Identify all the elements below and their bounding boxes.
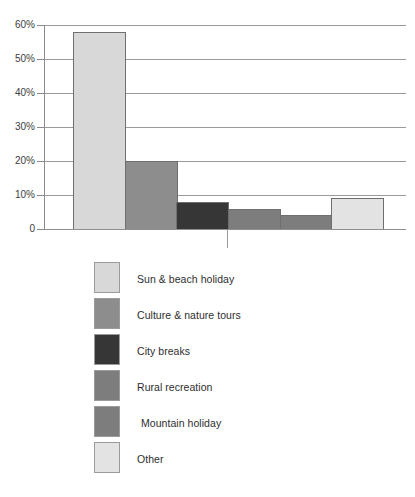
y-tick-mark-20 bbox=[37, 161, 44, 162]
bar-chart: 60%50%40%30%20%10%0 bbox=[0, 0, 415, 258]
y-tick-mark-60 bbox=[37, 25, 44, 26]
y-axis-line bbox=[44, 25, 45, 230]
y-axis-label: 30% bbox=[1, 122, 35, 132]
legend-label: Mountain holiday bbox=[141, 417, 221, 429]
gridline-60 bbox=[37, 25, 406, 26]
chart-legend: Sun & beach holidayCulture & nature tour… bbox=[0, 262, 415, 497]
bar bbox=[125, 161, 178, 229]
bar bbox=[73, 32, 126, 229]
y-axis-label: 50% bbox=[1, 54, 35, 64]
legend-label: Rural recreation bbox=[137, 381, 213, 393]
legend-swatch bbox=[94, 334, 120, 365]
y-axis-label: 60% bbox=[1, 20, 35, 30]
legend-swatch bbox=[94, 262, 120, 293]
legend-item[interactable]: Sun & beach holiday bbox=[0, 262, 415, 298]
y-axis-label: 20% bbox=[1, 156, 35, 166]
x-axis-tick bbox=[227, 230, 228, 248]
legend-label: Culture & nature tours bbox=[137, 309, 241, 321]
legend-label: City breaks bbox=[137, 345, 190, 357]
bar bbox=[331, 198, 384, 229]
y-axis-label: 40% bbox=[1, 88, 35, 98]
legend-item[interactable]: City breaks bbox=[0, 334, 415, 370]
y-tick-mark-40 bbox=[37, 93, 44, 94]
legend-label: Other bbox=[137, 453, 164, 465]
legend-swatch bbox=[94, 370, 120, 401]
bar bbox=[176, 202, 229, 229]
legend-item[interactable]: Other bbox=[0, 442, 415, 478]
y-tick-mark-10 bbox=[37, 195, 44, 196]
bar bbox=[280, 215, 333, 229]
y-axis-label: 10% bbox=[1, 190, 35, 200]
legend-swatch bbox=[94, 298, 120, 329]
legend-swatch bbox=[94, 406, 120, 437]
y-tick-mark-30 bbox=[37, 127, 44, 128]
legend-item[interactable]: Mountain holiday bbox=[0, 406, 415, 442]
legend-item[interactable]: Rural recreation bbox=[0, 370, 415, 406]
legend-label: Sun & beach holiday bbox=[137, 273, 234, 285]
legend-swatch bbox=[94, 442, 120, 473]
y-axis-label: 0 bbox=[1, 224, 35, 234]
y-tick-mark-50 bbox=[37, 59, 44, 60]
y-tick-mark-0 bbox=[37, 229, 44, 230]
legend-item[interactable]: Culture & nature tours bbox=[0, 298, 415, 334]
bar bbox=[228, 209, 281, 229]
y-axis-labels: 60%50%40%30%20%10%0 bbox=[0, 0, 35, 258]
gridline-0 bbox=[37, 229, 406, 230]
